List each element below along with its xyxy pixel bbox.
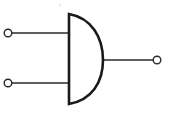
input-b: [4, 79, 69, 87]
speck-mark: [59, 4, 60, 5]
and-gate-body-icon: [69, 14, 103, 104]
output-q: [103, 56, 161, 64]
and-gate-diagram: [0, 0, 179, 127]
input-a: [4, 29, 69, 37]
input-a-terminal-icon[interactable]: [4, 29, 12, 37]
output-terminal-icon[interactable]: [153, 56, 161, 64]
input-b-terminal-icon[interactable]: [4, 79, 12, 87]
